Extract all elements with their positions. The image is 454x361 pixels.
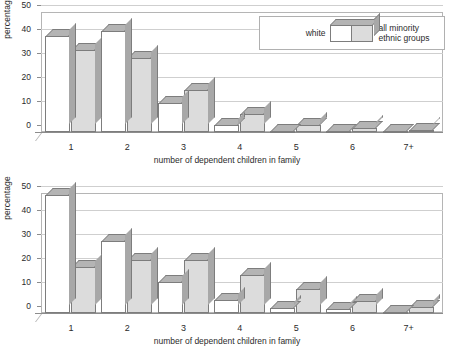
x-tick-label: 7+: [389, 323, 429, 333]
plot-area-bottom: 01020304050: [35, 193, 445, 321]
bar-side-face: [320, 276, 327, 305]
bar-all-minority-ethnic-groups-6: [352, 128, 377, 132]
bar-west-indian-african-1: [45, 195, 70, 313]
bar-pakistani-bangladeshi-7plus: [409, 307, 434, 313]
y-tick-label: 50: [4, 1, 31, 10]
gridline: [41, 5, 443, 6]
y-tick-label: 10: [4, 97, 31, 106]
x-tick-label: 4: [220, 323, 260, 333]
legend-right-label-top: all minority ethnic groups: [375, 23, 445, 44]
bar-west-indian-african-6: [326, 309, 351, 313]
bar-white-2: [101, 31, 126, 132]
legend-left-label-top: white: [260, 28, 329, 38]
bar-side-face: [264, 262, 271, 305]
y-tick-label: 0: [4, 121, 31, 130]
x-tick-label: 2: [107, 323, 147, 333]
x-tick-label: 1: [51, 142, 91, 152]
bar-side-face: [376, 288, 383, 305]
bar-west-indian-african-7plus: [383, 312, 408, 314]
y-tick-label: 0: [4, 302, 31, 311]
y-tick-mark: [37, 186, 41, 187]
bar-west-indian-african-4: [214, 300, 239, 313]
bar-side-face: [125, 18, 132, 124]
y-tick-label: 10: [4, 278, 31, 287]
x-axis-label-top: number of dependent children in family: [0, 155, 454, 165]
x-tick-label: 3: [164, 142, 204, 152]
y-tick-label: 40: [4, 206, 31, 215]
x-tick-label: 4: [220, 142, 260, 152]
chart-white-vs-minority: percentage 01020304050 1234567+ number o…: [0, 0, 454, 180]
x-tick-label: 7+: [389, 142, 429, 152]
bar-side-face: [69, 182, 76, 305]
bar-white-4: [214, 125, 239, 132]
x-tick-label: 5: [276, 142, 316, 152]
x-tick-label: 5: [276, 323, 316, 333]
bar-side-face: [151, 247, 158, 305]
bar-white-7plus: [383, 131, 408, 133]
y-tick-label: 20: [4, 73, 31, 82]
bar-white-3: [158, 103, 183, 132]
bar-white-5: [270, 131, 295, 133]
y-tick-label: 50: [4, 182, 31, 191]
y-tick-label: 20: [4, 254, 31, 263]
bar-white-6: [326, 131, 351, 133]
bar-side-face: [182, 269, 189, 305]
x-tick-label: 6: [332, 323, 372, 333]
bar-side-face: [264, 101, 271, 124]
y-tick-label: 30: [4, 230, 31, 239]
bar-side-face: [320, 112, 327, 124]
bar-all-minority-ethnic-groups-5: [296, 125, 321, 132]
bar-west-indian-african-5: [270, 308, 295, 313]
bar-west-indian-african-3: [158, 282, 183, 313]
y-axis-label-bottom: percentage: [2, 163, 12, 233]
x-tick-label: 6: [332, 142, 372, 152]
bar-side-face: [69, 23, 76, 124]
chart-westindian-vs-pakistani: percentage 01020304050 1234567+ number o…: [0, 181, 454, 361]
bar-white-1: [45, 36, 70, 132]
gridline: [41, 186, 443, 187]
x-tick-label: 2: [107, 142, 147, 152]
y-tick-mark: [37, 5, 41, 6]
bar-side-face: [125, 228, 132, 305]
bar-top-face: [353, 121, 383, 128]
legend-cube-icon-top: [330, 25, 374, 42]
x-tick-label: 1: [51, 323, 91, 333]
bars-bottom: [35, 193, 445, 321]
bar-side-face: [208, 247, 215, 305]
bar-side-face: [208, 77, 215, 124]
x-axis-label-bottom: number of dependent children in family: [0, 336, 454, 346]
bar-all-minority-ethnic-groups-7plus: [409, 130, 434, 132]
bar-west-indian-african-2: [101, 241, 126, 313]
bar-side-face: [151, 45, 158, 124]
x-tick-label: 3: [164, 323, 204, 333]
y-tick-label: 30: [4, 49, 31, 58]
y-tick-label: 40: [4, 25, 31, 34]
bar-side-face: [95, 37, 102, 124]
bar-side-face: [95, 254, 102, 305]
legend-top: white all minority ethnic groups: [259, 16, 445, 50]
